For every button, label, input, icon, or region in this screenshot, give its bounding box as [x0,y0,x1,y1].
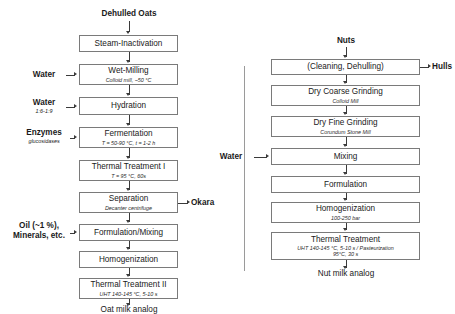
oat-step-title: Fermentation [104,129,152,138]
arrowhead-okara [187,200,190,204]
arrowhead-oat-6 [126,220,130,223]
process-flow-diagram: Dehulled Oats Steam-Inactivation Wet-Mil… [0,0,455,314]
oat-input-water-1: Water [22,70,66,79]
arrowhead-oat-1 [126,60,130,63]
oat-step-title: Wet-Milling [108,66,148,75]
oat-output-label: Oat milk analog [79,305,179,314]
arrowhead-hulls [428,64,431,68]
arrowhead-oat-input [126,31,130,34]
arrowhead-oat-7 [126,247,130,250]
arrowhead-enzymes [74,135,77,139]
nut-step-homogenization: Homogenization 100-250 bar [271,202,420,223]
oat-step-title: Hydration [111,101,146,110]
oat-step-subtitle: T = 50-90 °C, t = 1-2 h [102,140,156,146]
nut-step-title: (Cleaning, Dehulling) [307,62,383,71]
oat-step-thermal-treatment-2: Thermal Treatment II UHT 140-145 °C, 5-1… [79,278,178,299]
oat-side-output-okara: Okara [191,198,231,207]
nut-step-thermal-treatment: Thermal Treatment UHT 140-145 °C, 5-10 s… [271,232,420,260]
arrowhead-nut-2 [343,112,347,115]
oat-step-fermentation: Fermentation T = 50-90 °C, t = 1-2 h [79,127,178,148]
oat-input-water-2-ratio: 1:6-1:9 [22,108,66,114]
oat-step-homogenization: Homogenization [79,251,178,268]
arrowhead-oat-3 [126,123,130,126]
arrowhead-oat-5 [126,188,130,191]
oat-input-oil-minerals: Oil (~1 %), Minerals, etc. [8,221,70,242]
oat-input-enzymes-detail: glucosidases [18,138,70,144]
oat-step-title: Homogenization [99,255,158,264]
oat-input-label: Dehulled Oats [79,9,179,18]
oat-input-oil-minerals-detail: Minerals, etc. [8,231,70,241]
oat-input-enzymes: Enzymes glucosidases [18,128,70,144]
arrowhead-nut-water [266,154,269,158]
nut-step-title: Mixing [334,152,358,161]
nut-step-title: Homogenization [316,204,375,213]
arrowhead-oil-minerals [74,230,77,234]
nut-side-output-hulls: Hulls [432,62,455,71]
arrowhead-nut-1 [343,81,347,84]
oat-step-thermal-treatment-1: Thermal Treatment I T = 95 °C, 60s [79,160,178,181]
arrowhead-nut-3 [343,144,347,147]
arrowhead-oat-8 [126,274,130,277]
nut-step-subtitle: 100-250 bar [331,215,360,221]
arrowhead-nut-5 [343,198,347,201]
oat-step-title: Formulation/Mixing [94,228,163,237]
oat-step-title: Thermal Treatment II [91,280,167,289]
oat-step-title: Separation [109,194,149,203]
oat-step-wet-milling: Wet-Milling Colloid mill, ~50 °C [79,64,178,85]
oat-step-subtitle: Decanter centrifuge [105,205,152,211]
nut-step-dry-coarse-grinding: Dry Coarse Grinding Colloid Mill [271,85,420,106]
column-divider [244,66,245,271]
nut-step-title: Thermal Treatment [311,235,380,244]
oat-step-hydration: Hydration [79,97,178,115]
oat-input-water-2: Water 1:6-1:9 [22,98,66,114]
oat-step-separation: Separation Decanter centrifuge [79,192,178,213]
nut-step-subtitle: Corundum Stone Mill [320,129,370,135]
arrowhead-nut-input [343,55,347,58]
oat-step-steam-inactivation: Steam-Inactivation [79,35,178,52]
oat-step-subtitle: Colloid mill, ~50 °C [106,77,152,83]
arrowhead-nut-6 [343,228,347,231]
nut-output-label: Nut milk analog [296,269,396,278]
nut-step-cleaning-dehulling: (Cleaning, Dehulling) [271,59,420,75]
nut-step-subtitle: Colloid Mill [332,98,358,104]
oat-step-subtitle: T = 95 °C, 60s [111,173,146,179]
nut-input-label: Nuts [306,36,386,45]
oat-step-title: Steam-Inactivation [95,39,163,48]
arrowhead-nut-4 [343,172,347,175]
arrowhead-water-2 [74,104,77,108]
nut-input-water: Water [209,152,253,161]
nut-step-title: Dry Coarse Grinding [308,87,383,96]
arrowhead-water-1 [74,72,77,76]
oat-step-title: Thermal Treatment I [92,162,166,171]
arrowhead-oat-4 [126,156,130,159]
oat-step-formulation-mixing: Formulation/Mixing [79,224,178,241]
nut-step-title: Dry Fine Grinding [313,118,377,127]
nut-step-title: Formulation [324,180,367,189]
nut-step-formulation: Formulation [271,176,420,193]
nut-step-mixing: Mixing [271,148,420,165]
nut-step-subtitle-2: 95°C, 30 s [333,251,358,257]
arrowhead-oat-2 [126,93,130,96]
oat-step-subtitle: UHT 140-145 °C, 5-10 s [100,291,158,297]
nut-step-dry-fine-grinding: Dry Fine Grinding Corundum Stone Mill [271,116,420,137]
